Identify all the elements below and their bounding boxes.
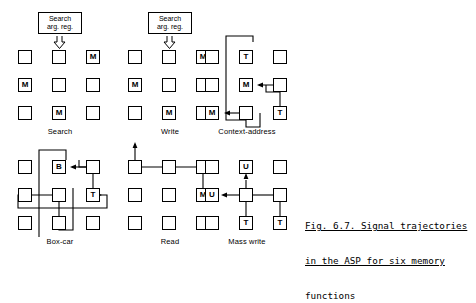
- arrowhead-left-icon: [224, 111, 230, 116]
- memory-cell[interactable]: [86, 160, 100, 174]
- memory-cell[interactable]: B: [52, 160, 66, 174]
- panel-search: Search arg. reg. M M M Search: [18, 12, 102, 124]
- caption-line-3: functions: [305, 290, 476, 302]
- memory-cell[interactable]: [128, 216, 142, 230]
- memory-cell[interactable]: M: [52, 106, 66, 120]
- memory-cell[interactable]: T: [273, 106, 287, 120]
- memory-cell[interactable]: [273, 160, 287, 174]
- memory-cell[interactable]: [86, 216, 100, 230]
- panel-box-car: B T Box-car: [18, 142, 102, 242]
- arrowhead-up-icon: [133, 142, 138, 148]
- caption-line-2: in the ASP for six memory: [305, 255, 476, 267]
- memory-cell[interactable]: [205, 78, 219, 92]
- memory-cell[interactable]: T: [86, 188, 100, 202]
- memory-cell[interactable]: [128, 188, 142, 202]
- memory-cell[interactable]: [273, 50, 287, 64]
- panel-write: Search arg. reg. M M M Write: [128, 12, 212, 124]
- memory-cell[interactable]: [273, 78, 287, 92]
- panel-label-write: Write: [128, 127, 212, 136]
- panel-label-box-car: Box-car: [18, 237, 102, 246]
- memory-cell[interactable]: [239, 188, 253, 202]
- memory-cell[interactable]: [162, 216, 176, 230]
- hollow-down-arrow-icon: [54, 36, 65, 49]
- memory-cell[interactable]: M: [86, 50, 100, 64]
- memory-cell[interactable]: [162, 50, 176, 64]
- panel-label-read: Read: [128, 237, 212, 246]
- memory-cell[interactable]: [52, 216, 66, 230]
- memory-cell[interactable]: T: [239, 216, 253, 230]
- memory-cell[interactable]: [273, 188, 287, 202]
- memory-cell[interactable]: U: [205, 188, 219, 202]
- memory-cell[interactable]: [86, 106, 100, 120]
- hollow-down-arrow-icon: [164, 36, 175, 49]
- memory-cell[interactable]: [52, 78, 66, 92]
- box-car-trajectory: [18, 142, 122, 250]
- memory-cell[interactable]: [18, 188, 32, 202]
- memory-cell[interactable]: [162, 78, 176, 92]
- caption-line-1: Fig. 6.7. Signal trajectories: [305, 220, 476, 232]
- trajectory-path: [226, 36, 253, 113]
- memory-cell[interactable]: M: [239, 78, 253, 92]
- memory-cell[interactable]: M: [162, 106, 176, 120]
- memory-cell[interactable]: [52, 50, 66, 64]
- memory-cell[interactable]: [162, 160, 176, 174]
- arrowhead-left-icon: [70, 165, 76, 170]
- panel-read: M Read: [128, 142, 212, 242]
- memory-cell[interactable]: [128, 160, 142, 174]
- arrowhead-left-icon: [221, 193, 227, 198]
- panel-context-address: T M M T Context-address: [205, 12, 289, 124]
- memory-cell[interactable]: [128, 106, 142, 120]
- panel-label-context-address: Context-address: [205, 127, 289, 136]
- memory-cell[interactable]: M: [205, 106, 219, 120]
- arrowhead-left-icon: [257, 83, 263, 88]
- memory-cell[interactable]: U: [239, 160, 253, 174]
- memory-cell[interactable]: [18, 216, 32, 230]
- panel-label-mass-write: Mass write: [205, 237, 289, 246]
- memory-cell[interactable]: [86, 78, 100, 92]
- panel-mass-write: U U T T Mass write: [205, 142, 289, 242]
- memory-cell[interactable]: [162, 188, 176, 202]
- memory-cell[interactable]: [205, 216, 219, 230]
- memory-cell[interactable]: T: [239, 50, 253, 64]
- memory-cell[interactable]: T: [273, 216, 287, 230]
- memory-cell[interactable]: M: [128, 78, 142, 92]
- memory-cell[interactable]: [18, 160, 32, 174]
- memory-cell[interactable]: [18, 50, 32, 64]
- panel-label-search: Search: [18, 127, 102, 136]
- memory-cell[interactable]: M: [18, 78, 32, 92]
- memory-cell[interactable]: [239, 106, 253, 120]
- memory-cell[interactable]: [205, 50, 219, 64]
- figure-caption: Fig. 6.7. Signal trajectories in the ASP…: [305, 197, 476, 303]
- memory-cell[interactable]: [128, 50, 142, 64]
- memory-cell[interactable]: [52, 188, 66, 202]
- trajectory-path: [79, 160, 86, 167]
- memory-cell[interactable]: [205, 160, 219, 174]
- memory-cell[interactable]: [18, 106, 32, 120]
